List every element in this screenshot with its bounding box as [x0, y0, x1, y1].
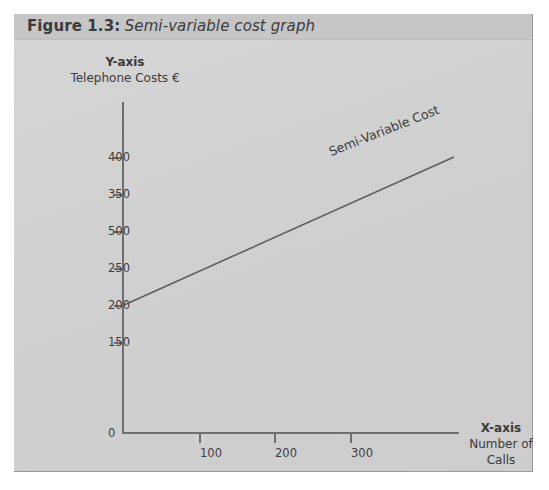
- x-tick-200: [274, 434, 276, 443]
- page-title: Semi-variable cost graph: [125, 17, 315, 35]
- x-tick-label-200: 200: [275, 446, 297, 460]
- x-tick-label-300: 300: [351, 446, 373, 460]
- y-tick-label-350: 350: [108, 187, 130, 201]
- y-tick-label-150: 150: [108, 335, 130, 349]
- y-tick-label-200: 200: [108, 298, 130, 312]
- figure-caption: Figure 1.3: Semi-variable cost graph: [27, 17, 315, 35]
- figure-number: Figure 1.3:: [27, 17, 120, 35]
- semi-variable-cost-line: [14, 40, 533, 472]
- x-axis-name: X-axis: [462, 420, 540, 436]
- x-axis-title: X-axis Number of Calls: [462, 420, 540, 468]
- x-tick-label-100: 100: [200, 446, 222, 460]
- figure-panel: Figure 1.3: Semi-variable cost graph Y-a…: [14, 14, 533, 472]
- x-axis-unit-label-line2: Calls: [462, 452, 540, 468]
- y-tick-label-400: 400: [108, 150, 130, 164]
- x-tick-300: [350, 434, 352, 443]
- x-axis-unit-label-line1: Number of: [462, 436, 540, 452]
- x-tick-100: [199, 434, 201, 443]
- x-axis-line: [122, 432, 459, 434]
- y-tick-label-0: 0: [108, 426, 115, 440]
- y-tick-label-300: 500: [108, 224, 130, 238]
- y-axis-title: Y-axis Telephone Costs €: [40, 54, 210, 86]
- series-annotation-semi-variable-cost: Semi-Variable Cost: [327, 102, 442, 159]
- y-axis-name: Y-axis: [40, 54, 210, 70]
- chart-plot-area: Y-axis Telephone Costs € 400 350 500 250…: [14, 40, 533, 472]
- y-axis-unit-label: Telephone Costs €: [40, 70, 210, 86]
- y-tick-label-250: 250: [108, 261, 130, 275]
